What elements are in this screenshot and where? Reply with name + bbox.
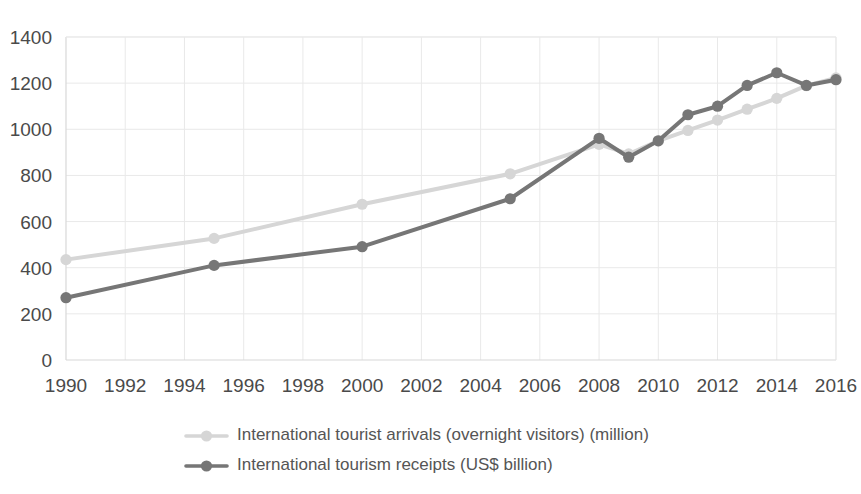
data-point: [593, 133, 604, 144]
y-axis-tick-label: 0: [41, 350, 52, 371]
data-point: [357, 199, 368, 210]
legend-item-label: International tourist arrivals (overnigh…: [237, 425, 649, 444]
x-axis-labels: 1990199219941996199820002002200420062008…: [45, 375, 857, 396]
grid-lines: [66, 37, 836, 360]
x-axis-tick-label: 2000: [341, 375, 383, 396]
y-axis-tick-label: 600: [20, 212, 52, 233]
y-axis-tick-label: 800: [20, 165, 52, 186]
x-axis-tick-label: 1996: [223, 375, 265, 396]
data-point: [505, 168, 516, 179]
data-point: [682, 109, 693, 120]
y-axis-labels: 0200400600800100012001400: [10, 27, 52, 371]
axes: [66, 37, 836, 360]
data-point: [712, 101, 723, 112]
x-axis-tick-label: 2010: [637, 375, 679, 396]
y-axis-tick-label: 1400: [10, 27, 52, 48]
y-axis-tick-label: 400: [20, 258, 52, 279]
x-axis-tick-label: 2002: [400, 375, 442, 396]
x-axis-tick-label: 2004: [459, 375, 502, 396]
x-axis-tick-label: 1998: [282, 375, 324, 396]
data-point: [742, 104, 753, 115]
x-axis-tick-label: 2008: [578, 375, 620, 396]
y-axis-tick-label: 200: [20, 304, 52, 325]
data-point: [208, 260, 219, 271]
data-point: [653, 135, 664, 146]
data-point: [830, 74, 841, 85]
legend-item-label: International tourism receipts (US$ bill…: [237, 455, 553, 474]
x-axis-tick-label: 1990: [45, 375, 87, 396]
data-point: [60, 254, 71, 265]
x-axis-tick-label: 2014: [756, 375, 799, 396]
x-axis-tick-label: 2006: [519, 375, 561, 396]
data-point: [742, 80, 753, 91]
data-point: [208, 233, 219, 244]
data-point: [357, 241, 368, 252]
legend-swatch-marker: [201, 460, 212, 471]
data-point: [771, 67, 782, 78]
chart-legend: International tourist arrivals (overnigh…: [186, 425, 649, 474]
legend-swatch-marker: [201, 430, 212, 441]
chart-container: 0200400600800100012001400199019921994199…: [0, 0, 861, 494]
x-axis-tick-label: 1994: [163, 375, 206, 396]
legend-item[interactable]: International tourism receipts (US$ bill…: [186, 455, 553, 474]
data-point: [505, 193, 516, 204]
legend-item[interactable]: International tourist arrivals (overnigh…: [186, 425, 649, 444]
data-point: [623, 152, 634, 163]
data-point: [60, 292, 71, 303]
data-point: [712, 114, 723, 125]
y-axis-tick-label: 1000: [10, 119, 52, 140]
data-point: [682, 125, 693, 136]
x-axis-tick-label: 2016: [815, 375, 857, 396]
line-chart: 0200400600800100012001400199019921994199…: [0, 0, 861, 494]
x-axis-tick-label: 2012: [696, 375, 738, 396]
data-point: [801, 80, 812, 91]
y-axis-tick-label: 1200: [10, 73, 52, 94]
x-axis-tick-label: 1992: [104, 375, 146, 396]
data-point: [771, 93, 782, 104]
